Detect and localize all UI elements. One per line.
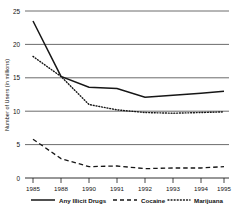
x-tick-label-1994: 1994: [194, 185, 208, 192]
y-tick-label-15: 15: [13, 74, 21, 81]
x-tick-label-1991: 1991: [110, 185, 124, 192]
x-tick-label-1995: 1995: [217, 185, 231, 192]
x-tick-label-1985: 1985: [26, 185, 40, 192]
y-tick-label-10: 10: [13, 108, 21, 115]
x-tick-marks: [33, 178, 224, 183]
series-line-cocaine: [33, 139, 224, 168]
legend-label-any-illicit-drugs: Any Illicit Drugs: [59, 197, 107, 204]
line-chart: 25 20 15 10 5 0 1985 1988 1990 1991 1992…: [0, 0, 233, 209]
y-tick-labels: 25 20 15 10 5 0: [13, 8, 21, 182]
x-tick-label-1993: 1993: [166, 185, 180, 192]
y-tick-label-25: 25: [13, 8, 21, 15]
legend-label-cocaine: Cocaine: [141, 197, 166, 204]
x-tick-label-1988: 1988: [54, 185, 68, 192]
y-tick-label-20: 20: [13, 41, 21, 48]
x-tick-labels: 1985 1988 1990 1991 1992 1993 1994 1995: [26, 185, 231, 192]
chart-legend: Any Illicit Drugs Cocaine Marijuana: [31, 197, 223, 204]
gridlines: [25, 11, 229, 145]
series-line-any-illicit-drugs: [33, 21, 224, 97]
x-tick-label-1992: 1992: [138, 185, 152, 192]
y-tick-label-0: 0: [16, 175, 20, 182]
chart-container: 25 20 15 10 5 0 1985 1988 1990 1991 1992…: [0, 0, 233, 209]
y-tick-label-5: 5: [16, 141, 20, 148]
legend-label-marijuana: Marijuana: [194, 197, 223, 204]
y-axis-title: Number of Users (in millions): [4, 59, 10, 131]
x-tick-label-1990: 1990: [82, 185, 96, 192]
series-line-marijuana: [33, 56, 224, 113]
